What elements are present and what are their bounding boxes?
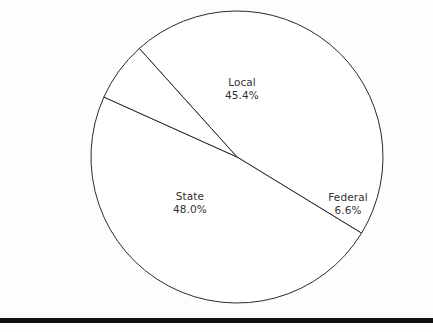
pie-slices-group: [91, 11, 383, 303]
pie-chart-graphic: [0, 0, 433, 332]
pie-label-state: State 48.0%: [140, 190, 240, 216]
pie-label-local-value: 45.4%: [192, 89, 292, 102]
pie-label-federal: Federal 6.6%: [298, 191, 398, 217]
pie-label-federal-value: 6.6%: [298, 204, 398, 217]
pie-label-federal-name: Federal: [298, 191, 398, 204]
pie-label-state-name: State: [140, 190, 240, 203]
pie-label-local-name: Local: [192, 76, 292, 89]
pie-label-local: Local 45.4%: [192, 76, 292, 102]
pie-label-state-value: 48.0%: [140, 203, 240, 216]
bottom-divider-rule: [0, 318, 433, 323]
pie-chart-page: Local 45.4% State 48.0% Federal 6.6%: [0, 0, 433, 332]
